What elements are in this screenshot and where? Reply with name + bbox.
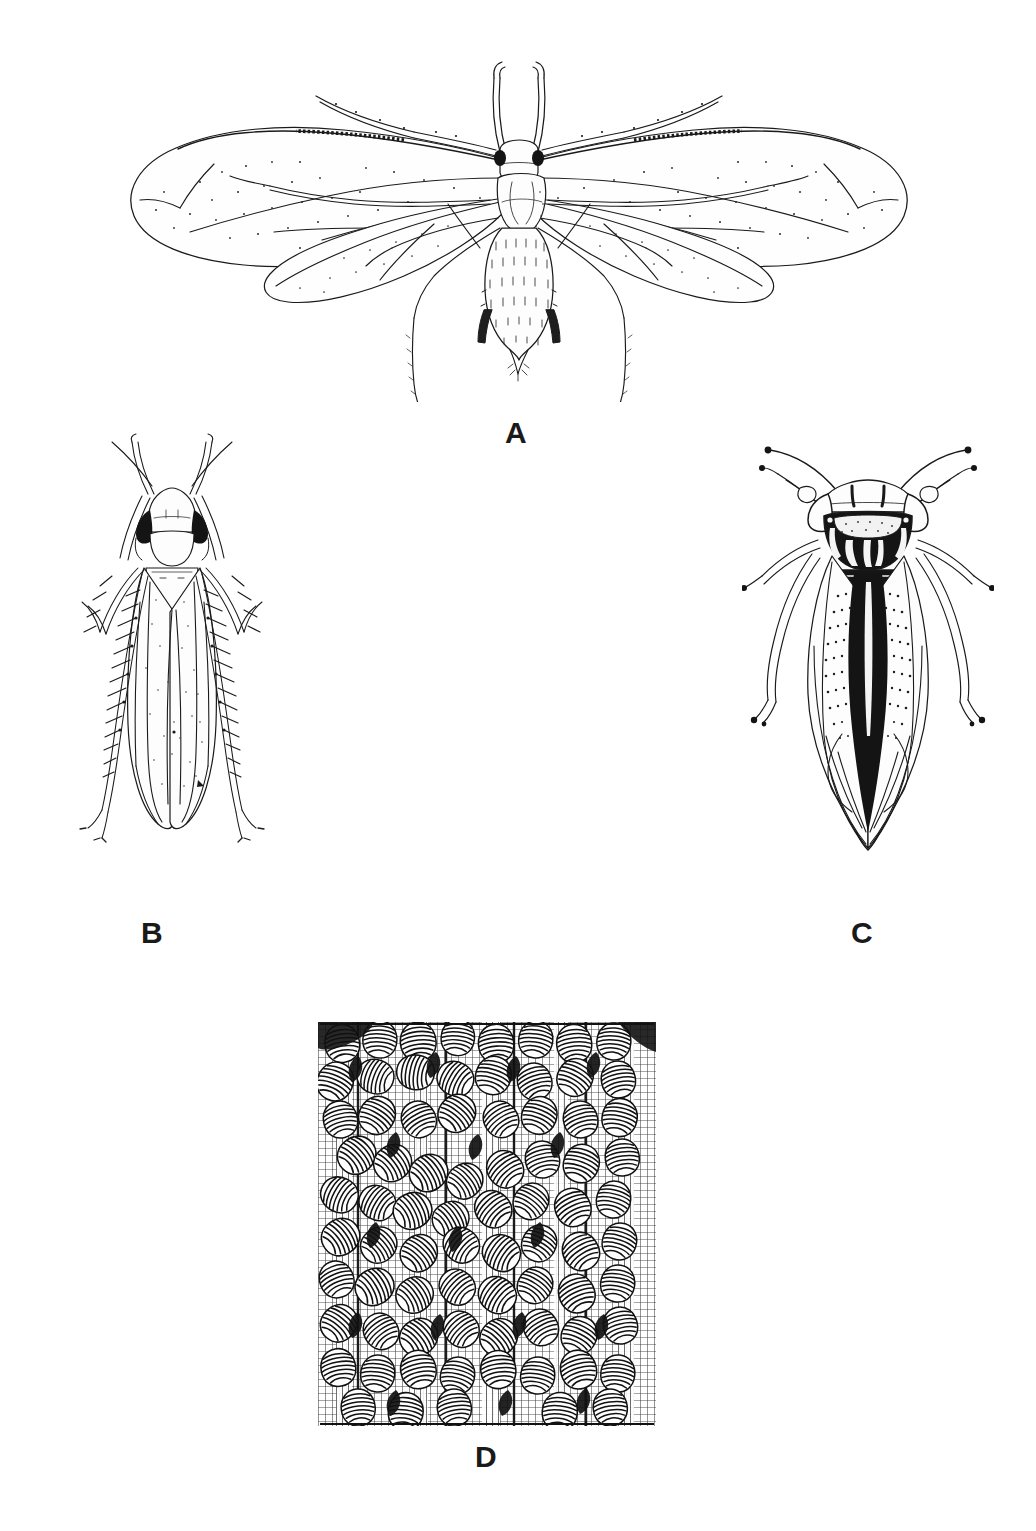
left-antenna-tip [765, 447, 772, 454]
right-compound-eye [532, 150, 544, 166]
panel-b-pale-leafhopper [56, 432, 288, 874]
figure-plate: A [0, 0, 1036, 1531]
panel-d-nymph-colony [318, 1022, 656, 1426]
panel-label-d: D [456, 1442, 516, 1472]
panel-label-a: A [486, 418, 546, 448]
leafhopper-c-head [824, 480, 913, 512]
leafhopper-c-forewings [808, 556, 929, 848]
panel-c-dark-leafhopper [742, 436, 994, 878]
leafhopper-b-antennae [112, 442, 232, 486]
panel-label-c: C [832, 918, 892, 948]
right-antenna-tip [965, 447, 972, 454]
panel-label-b: B [122, 918, 182, 948]
leafhopper-b-head [148, 488, 196, 532]
panel-a-winged-aphid [104, 52, 934, 402]
aphid-thorax [497, 174, 545, 233]
left-compound-eye [494, 150, 506, 166]
leafhopper-c-pronotum [824, 512, 912, 571]
aphid-abdomen [481, 228, 557, 381]
